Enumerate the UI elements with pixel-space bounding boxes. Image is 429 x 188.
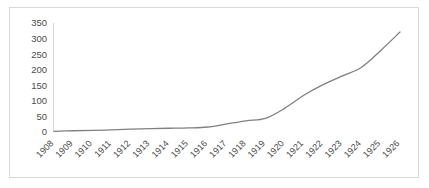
- y-tick-label: 50: [36, 111, 47, 122]
- y-tick-label: 250: [31, 49, 47, 60]
- y-tick-label: 150: [31, 80, 47, 91]
- x-tick-label: 1922: [303, 138, 324, 159]
- x-tick-label: 1914: [150, 138, 171, 159]
- chart-plot-area: 050100150200250300350 190819091910191119…: [10, 8, 418, 177]
- x-tick-label: 1918: [226, 138, 247, 159]
- y-tick-label: 350: [31, 17, 47, 28]
- y-tick-label: 200: [31, 64, 47, 75]
- x-tick-label: 1923: [323, 138, 344, 159]
- y-tick-label: 0: [42, 126, 47, 137]
- x-tick-label: 1916: [188, 138, 209, 159]
- x-tick-label: 1911: [92, 138, 113, 159]
- x-tick-label: 1926: [380, 138, 401, 159]
- x-tick-label: 1917: [207, 138, 228, 159]
- line-chart: 050100150200250300350 190819091910191119…: [10, 8, 418, 177]
- x-tick-label: 1912: [111, 138, 132, 159]
- y-tick-label: 300: [31, 33, 47, 44]
- y-tick-label: 100: [31, 95, 47, 106]
- x-tick-label: 1909: [53, 138, 74, 159]
- x-tick-label: 1924: [342, 138, 363, 159]
- x-tick-label: 1920: [265, 138, 286, 159]
- y-axis-tick-labels: 050100150200250300350: [31, 17, 47, 137]
- x-axis-tick-labels: 1908190919101911191219131914191519161917…: [34, 138, 401, 159]
- data-series-line: [54, 32, 400, 131]
- x-tick-label: 1915: [169, 138, 190, 159]
- x-tick-label: 1913: [130, 138, 151, 159]
- x-tick-label: 1910: [73, 138, 94, 159]
- x-tick-label: 1925: [361, 138, 382, 159]
- x-tick-label: 1921: [284, 138, 305, 159]
- x-tick-label: 1919: [246, 138, 267, 159]
- chart-card: 050100150200250300350 190819091910191119…: [9, 7, 419, 178]
- x-tick-label: 1908: [34, 138, 55, 159]
